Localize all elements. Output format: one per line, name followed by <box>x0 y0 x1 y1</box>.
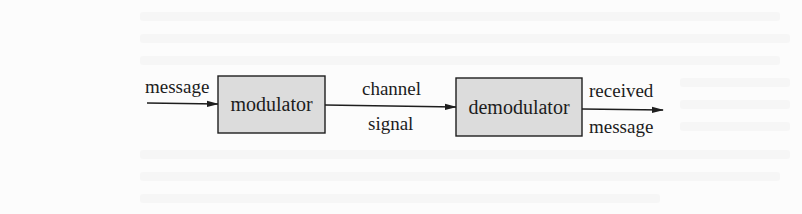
signal-label: signal <box>368 114 413 133</box>
input-label: message <box>145 77 209 96</box>
channel-arrow <box>325 105 456 107</box>
received-label: received <box>589 81 653 100</box>
channel-label: channel <box>362 79 421 98</box>
demodulator-label: demodulator <box>456 97 582 117</box>
block-diagram <box>0 0 802 214</box>
output-arrow <box>582 109 663 110</box>
received-message-label: message <box>589 117 653 136</box>
diagram-page: message modulator channel signal demodul… <box>0 0 802 214</box>
modulator-label: modulator <box>218 94 325 114</box>
input-arrow <box>147 103 218 104</box>
